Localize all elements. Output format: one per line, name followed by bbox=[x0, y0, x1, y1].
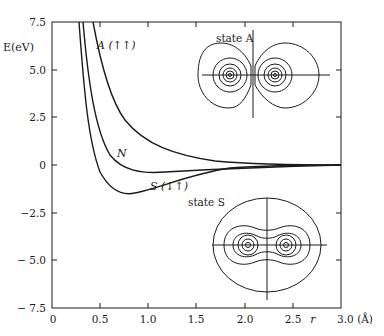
energy-curves-chart: 7.5 5.0 2.5 0 −2.5 − 5.0 − 7.5 0 0.5 1.0… bbox=[0, 0, 384, 336]
y-tick-label: 7.5 bbox=[29, 16, 46, 28]
curve-label-S: S (↓↑) bbox=[150, 180, 188, 193]
y-tick-label: − 7.5 bbox=[17, 302, 46, 314]
y-tick-label: −2.5 bbox=[21, 207, 47, 219]
y-tick-label: 0 bbox=[39, 159, 46, 171]
x-ticks bbox=[100, 22, 293, 308]
x-tick-label-unit: 3.0 (Å) bbox=[337, 312, 373, 325]
contours-S bbox=[212, 198, 327, 300]
curve-label-N: N bbox=[116, 147, 127, 160]
inset-state-S: state S bbox=[188, 196, 327, 300]
x-tick-label: 0 bbox=[50, 313, 57, 325]
y-tick-label: 5.0 bbox=[29, 64, 46, 76]
inset-label-S: state S bbox=[188, 196, 225, 208]
y-axis-label: E(eV) bbox=[3, 41, 34, 54]
x-tick-label: 1.0 bbox=[140, 313, 157, 325]
x-tick-label: 2.5 bbox=[285, 313, 302, 325]
y-tick-label: − 5.0 bbox=[17, 254, 46, 266]
x-tick-label: 0.5 bbox=[92, 313, 109, 325]
inset-state-A: state A bbox=[198, 30, 330, 118]
y-tick-label: 2.5 bbox=[29, 111, 46, 123]
curve-label-A: A (↑↑) bbox=[96, 39, 135, 52]
x-tick-label: 1.5 bbox=[188, 313, 205, 325]
x-tick-label: 2.0 bbox=[237, 313, 254, 325]
x-axis-label: r bbox=[310, 313, 316, 326]
inset-label-A: state A bbox=[216, 32, 254, 44]
contours-A bbox=[198, 30, 330, 118]
